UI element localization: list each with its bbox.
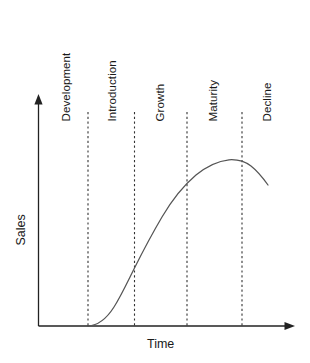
stage-label-decline: Decline [262, 82, 274, 121]
y-axis-arrow-icon [34, 94, 42, 105]
x-axis-arrow-icon [285, 322, 296, 330]
sales-curve [88, 160, 268, 326]
product-life-cycle-diagram: Development Introduction Growth Maturity… [0, 0, 310, 363]
stage-label-development: Development [61, 53, 73, 122]
stage-dividers [88, 112, 242, 326]
stage-label-growth: Growth [155, 84, 167, 122]
y-axis-title: Sales [15, 214, 28, 245]
x-axis-title: Time [147, 338, 174, 351]
y-axis [34, 94, 42, 326]
chart-canvas [0, 0, 310, 363]
stage-label-maturity: Maturity [208, 80, 220, 122]
x-axis [39, 322, 296, 330]
stage-label-introduction: Introduction [107, 60, 119, 121]
